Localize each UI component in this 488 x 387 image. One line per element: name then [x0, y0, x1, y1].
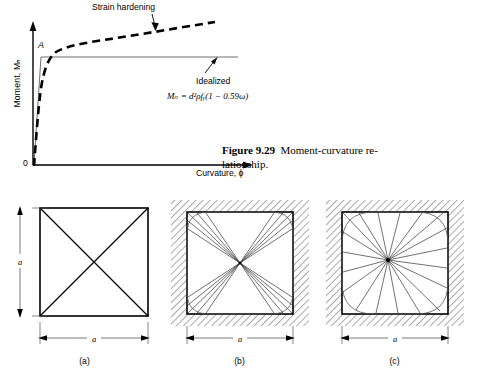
dimension-horizontal-label: a	[92, 334, 96, 344]
dimension-horizontal: a	[340, 326, 450, 345]
panel-c-canvas: a	[312, 196, 477, 356]
origin-label: 0	[23, 158, 28, 168]
figure-caption-text-line2: lationship.	[222, 158, 268, 170]
panel-b-canvas: a	[157, 196, 322, 356]
dimension-horizontal-label: a	[238, 334, 242, 344]
idealized-annotation: Idealized	[196, 76, 230, 86]
strain-hardening-leader	[151, 14, 158, 31]
yield-line-panels: a a (a)	[0, 196, 488, 387]
panel-b: a (b)	[157, 196, 322, 387]
dimension-horizontal: a	[38, 322, 150, 345]
panel-a-canvas: a a	[2, 196, 167, 356]
idealized-curve	[34, 57, 238, 164]
fan-centre-point	[386, 258, 390, 262]
strain-hardening-annotation: Strain hardening	[92, 2, 155, 12]
idealized-leader	[205, 57, 218, 73]
point-a-label: A	[38, 40, 44, 50]
dimension-horizontal: a	[185, 326, 295, 345]
y-axis-label: Moment, Mₙ	[12, 38, 22, 128]
panel-c-caption: (c)	[312, 356, 477, 366]
panel-a: a a (a)	[2, 196, 167, 387]
moment-capacity-equation: Mₙ = d²ρfᵧ(1 − 0.59ω)	[167, 91, 248, 101]
panel-b-caption: (b)	[157, 356, 322, 366]
figure-caption-text: Moment-curvature re-	[280, 144, 377, 156]
figure-page: Moment, Mₙ Curvature, ϕ 0 A Strain harde…	[0, 0, 488, 387]
panel-a-caption: (a)	[2, 356, 167, 366]
fan-centre-point	[238, 261, 241, 264]
dimension-horizontal-label: a	[393, 334, 397, 344]
figure-caption-number: Figure 9.29	[222, 144, 275, 156]
dimension-vertical-label: a	[18, 257, 22, 267]
panel-c: a (c)	[312, 196, 477, 387]
figure-caption: Figure 9.29 Moment-curvature re- lations…	[222, 143, 484, 171]
